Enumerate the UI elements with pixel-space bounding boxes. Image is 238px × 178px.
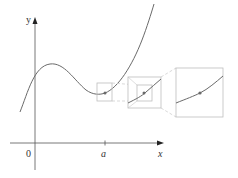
diagram-canvas: y 0 a x <box>0 0 238 178</box>
y-axis-arrow-icon <box>33 17 38 24</box>
x-axis-label: x <box>157 148 163 159</box>
tick-label-a: a <box>101 148 106 159</box>
y-axis-label: y <box>26 14 31 25</box>
zoom-box-3 <box>176 68 223 117</box>
origin-label: 0 <box>26 148 31 159</box>
point-a-marker <box>104 92 107 95</box>
zoom-box-2 <box>128 77 161 108</box>
point-a-marker-zoom-3 <box>198 91 201 94</box>
connector-lines-2 <box>161 68 176 117</box>
point-a-marker-zoom-2 <box>143 92 146 95</box>
zoom-box-1 <box>97 83 112 101</box>
x-axis-arrow-icon <box>157 141 164 146</box>
